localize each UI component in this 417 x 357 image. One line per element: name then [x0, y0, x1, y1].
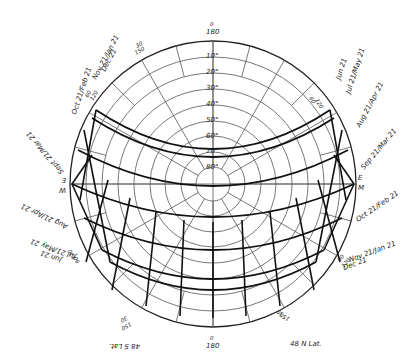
compass-east-mirror: M [358, 184, 364, 192]
svg-text:Jun 21: Jun 21 [334, 57, 349, 82]
svg-text:80°: 80° [206, 163, 218, 171]
latitude-label-mirrored: 48 S Lat. [109, 342, 140, 350]
sun-path-diagram: 10° 20° 30° 40° 50° 60° 70° 80° 0 180 0 … [0, 0, 417, 357]
svg-text:60°: 60° [206, 132, 218, 140]
svg-text:Oct 21/Feb 21: Oct 21/Feb 21 [70, 66, 93, 116]
bottom-azimuth-inner: 180 [206, 342, 220, 350]
svg-text:Sept 21/Mar 21: Sept 21/Mar 21 [25, 130, 66, 176]
date-labels-right: Jun 21 Jul 21/May 21 Aug 21/Apr 21 Sep 2… [334, 47, 400, 272]
bottom-azimuth-outer: 0 [210, 335, 214, 341]
svg-text:Jul 21/May 21: Jul 21/May 21 [344, 47, 367, 97]
svg-text:20°: 20° [206, 68, 218, 76]
svg-text:70°: 70° [206, 147, 218, 155]
svg-text:Aug 21/Apr 21: Aug 21/Apr 21 [354, 81, 385, 130]
compass-west-mirror: E [61, 176, 66, 184]
top-azimuth-outer: 0 [210, 21, 214, 27]
svg-text:Aug 21/Apr 21: Aug 21/Apr 21 [20, 202, 70, 231]
date-labels-left: Nov 21/Jan 21 Dec 21 Oct 21/Feb 21 Sept … [20, 34, 121, 264]
latitude-label: 48 N Lat. [290, 340, 322, 348]
svg-text:40°: 40° [206, 100, 218, 108]
svg-text:Sep 21/Mar 21: Sep 21/Mar 21 [359, 127, 398, 171]
svg-text:30°: 30° [206, 84, 218, 92]
altitude-labels: 10° 20° 30° 40° 50° 60° 70° 80° [206, 52, 218, 171]
svg-text:50°: 50° [206, 116, 218, 124]
compass-west: W [58, 186, 66, 194]
svg-text:10°: 10° [206, 52, 218, 60]
compass-east: E [358, 174, 363, 182]
svg-text:60: 60 [308, 96, 317, 105]
top-azimuth-inner: 180 [206, 28, 220, 36]
svg-text:Oct 21/Feb 21: Oct 21/Feb 21 [355, 189, 401, 223]
